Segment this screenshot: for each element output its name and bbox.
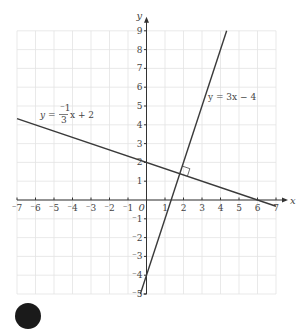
- y-axis-arrow-icon: [144, 17, 149, 23]
- x-tick-label: ⁻5: [49, 203, 60, 213]
- y-tick-label: 6: [137, 82, 143, 92]
- eq1-suffix: x + 2: [70, 110, 94, 120]
- x-tick-label: ⁻3: [86, 203, 97, 213]
- y-tick-label: ⁻1: [132, 214, 142, 224]
- eq1-denominator: 3: [61, 115, 67, 125]
- x-tick-label: 2: [181, 203, 187, 213]
- x-axis-label: x: [290, 195, 296, 206]
- question-badge-icon: [15, 303, 41, 329]
- svg-text:y =: y =: [39, 110, 56, 120]
- x-tick-label: 5: [236, 203, 242, 213]
- y-tick-label: ⁻3: [132, 251, 143, 261]
- x-tick-label: 7: [273, 203, 279, 213]
- y-tick-label: ⁻2: [132, 233, 142, 243]
- x-tick-label: 4: [218, 203, 224, 213]
- eq1-prefix: y =: [39, 110, 56, 120]
- y-tick-label: 1: [137, 176, 143, 186]
- y-tick-label: 3: [137, 139, 143, 149]
- x-axis-arrow-icon: [282, 198, 288, 203]
- y-tick-label: ⁻4: [132, 270, 143, 280]
- x-tick-label: ⁻2: [104, 203, 114, 213]
- eq1-numerator: ⁻1: [60, 103, 70, 113]
- equation-label-line-2: y = 3x − 4: [207, 92, 256, 102]
- y-tick-label: 4: [137, 120, 143, 130]
- x-tick-label: 6: [255, 203, 261, 213]
- y-tick-label: 5: [137, 101, 143, 111]
- x-tick-label: ⁻6: [30, 203, 41, 213]
- x-tick-label: ⁻1: [123, 203, 133, 213]
- x-tick-label: ⁻7: [12, 203, 23, 213]
- y-axis-label: y: [136, 10, 143, 21]
- x-tick-label: 3: [199, 203, 205, 213]
- x-tick-label: ⁻4: [67, 203, 78, 213]
- y-tick-label: 8: [137, 45, 143, 55]
- origin-label: 0: [139, 202, 146, 213]
- y-tick-label: 9: [137, 26, 143, 36]
- y-tick-label: 7: [137, 63, 143, 73]
